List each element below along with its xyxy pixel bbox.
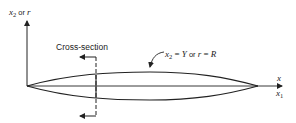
surface-equation-label: x2 = Y or r = R (164, 49, 217, 60)
surface-leader-arrow (150, 52, 164, 67)
horizontal-axis-label-x1: x1 (275, 88, 283, 99)
cross-section-label: Cross-section (56, 42, 108, 52)
vertical-axis-label: x2 or r (8, 7, 31, 18)
horizontal-axis-label-x: x (276, 73, 281, 83)
lens-body-diagram: x2 or r Cross-section x2 = Y or r = R x … (0, 0, 296, 123)
body-upper-surface (27, 72, 258, 86)
body-lower-surface (27, 86, 258, 100)
